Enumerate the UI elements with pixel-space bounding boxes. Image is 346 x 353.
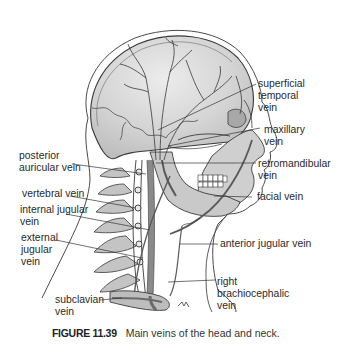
figure-caption: FIGURE 11.39Main veins of the head and n… xyxy=(52,327,280,339)
label-retromandibular-vein: retromandibular vein xyxy=(258,158,331,182)
label-right-brachiocephalic-vein: right brachiocephalic vein xyxy=(217,276,289,312)
label-posterior-auricular-vein: posterior auricular vein xyxy=(19,150,81,174)
label-superficial-temporal-vein: superficial temporal vein xyxy=(258,78,305,114)
teeth xyxy=(198,175,227,187)
diagram-stage: superficial temporal vein maxillary vein… xyxy=(0,0,346,353)
label-vertebral-vein: vertebral vein xyxy=(22,188,84,200)
label-subclavian-vein: subclavian vein xyxy=(55,294,104,318)
figure-caption-text: Main veins of the head and neck. xyxy=(126,327,280,339)
skull-cranium xyxy=(91,36,254,159)
internal-jugular-vein xyxy=(150,160,152,296)
label-facial-vein: facial vein xyxy=(257,191,303,203)
label-external-jugular-vein: external jugular vein xyxy=(21,232,58,268)
anterior-jugular-vein xyxy=(170,226,182,296)
artist-signature xyxy=(178,302,189,307)
label-anterior-jugular-vein: anterior jugular vein xyxy=(220,238,311,250)
figure-number: FIGURE 11.39 xyxy=(52,327,117,339)
label-maxillary-vein: maxillary vein xyxy=(264,124,305,148)
label-internal-jugular-vein: internal jugular vein xyxy=(20,204,88,228)
